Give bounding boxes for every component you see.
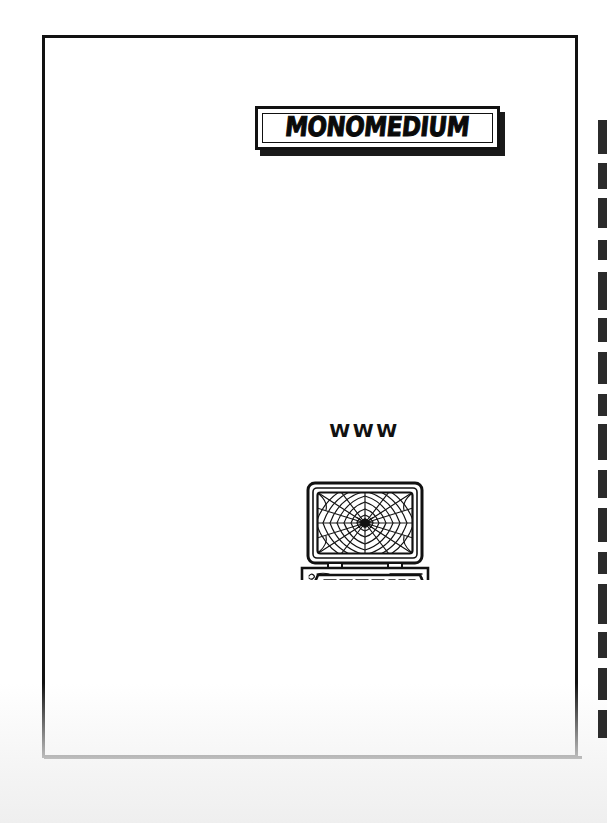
scan-dash [598, 668, 607, 700]
scan-dash [598, 120, 607, 154]
computer-with-spiderweb-illustration: WWW [292, 420, 437, 580]
scan-dash [598, 508, 607, 542]
title-box-inner-rule: MONOMEDIUM [262, 113, 493, 143]
scan-dash [598, 318, 607, 342]
scan-dash [598, 198, 607, 228]
title-plate: MONOMEDIUM [255, 106, 500, 150]
page-border-frame: MONOMEDIUM WWW [42, 35, 578, 758]
computer-drawing [292, 450, 437, 580]
www-label: WWW [292, 421, 437, 441]
scanned-page: MONOMEDIUM WWW [0, 0, 607, 823]
page-title: MONOMEDIUM [284, 114, 471, 142]
scan-dash [598, 240, 607, 260]
title-box: MONOMEDIUM [255, 106, 500, 150]
scan-dash [598, 352, 607, 384]
scan-dash [598, 470, 607, 498]
scan-dash [598, 710, 607, 738]
right-edge-binding-marks [595, 0, 607, 823]
scan-dash [598, 163, 607, 189]
scan-dash [598, 424, 607, 460]
scan-dash [598, 584, 607, 624]
spider-icon [357, 518, 373, 528]
scan-dash [598, 394, 607, 416]
keyboard [306, 575, 432, 580]
scan-dash [598, 632, 607, 658]
scan-dash [598, 552, 607, 574]
scan-dash [598, 272, 607, 310]
